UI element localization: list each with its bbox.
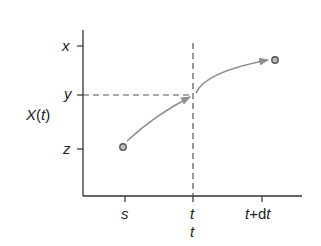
x-tick-label-s: s <box>121 205 129 222</box>
path-segment-s-to-t <box>127 97 190 141</box>
stochastic-process-diagram: x y z X(t) s t t+dt t <box>0 0 321 246</box>
x-axis-secondary-label-t: t <box>190 223 195 240</box>
path-segment-t-to-t-plus-dt <box>196 60 268 93</box>
start-point-marker <box>120 144 126 150</box>
end-point-marker <box>272 57 278 63</box>
x-tick-label-t-plus-dt: t+dt <box>245 205 271 222</box>
y-tick-label-z: z <box>62 140 71 157</box>
y-axis-label-close: ) <box>45 106 50 123</box>
y-tick-label-y: y <box>63 85 73 102</box>
x-tick-label-t: t <box>190 205 195 222</box>
y-axis-label: X(t) <box>25 106 50 123</box>
x-tick-label-plus: + <box>249 205 258 222</box>
x-tick-label-t-var2: t <box>266 205 271 222</box>
x-tick-label-d: d <box>258 205 266 222</box>
y-tick-label-x: x <box>61 37 70 54</box>
